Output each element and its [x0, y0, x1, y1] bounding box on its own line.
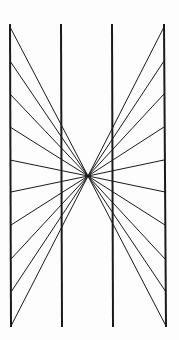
vertical-line-1 — [10, 24, 11, 327]
ray-line-right — [88, 176, 165, 192]
ray-line-right — [88, 176, 166, 326]
ray-line-right — [88, 27, 164, 176]
ray-line-left — [10, 160, 88, 176]
illusion-svg — [0, 0, 179, 340]
ray-line-left — [11, 176, 88, 192]
ray-line-right — [88, 94, 164, 176]
ray-line-left — [10, 27, 88, 176]
ray-line-left — [11, 176, 88, 292]
ray-line-right — [88, 61, 164, 176]
hering-illusion-figure — [0, 0, 179, 340]
ray-line-right — [88, 176, 166, 292]
vertical-line-3 — [112, 24, 113, 327]
vertical-line-4 — [164, 24, 166, 327]
ray-line-left — [11, 176, 88, 326]
ray-line-left — [10, 61, 88, 176]
ray-line-left — [10, 94, 88, 176]
vertical-line-2 — [61, 24, 62, 327]
ray-line-right — [88, 160, 164, 176]
